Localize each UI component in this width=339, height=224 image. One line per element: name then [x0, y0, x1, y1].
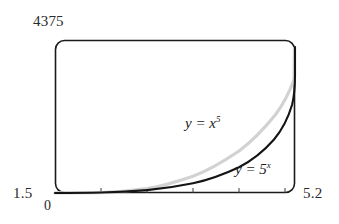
curve-label-power-exponent: 5 [216, 114, 221, 124]
x-max-label: 5.2 [303, 186, 322, 201]
y-min-label: 1.5 [13, 186, 32, 201]
curve-label-exponential-exponent: x [267, 160, 271, 170]
curve-label-exponential-text: y = 5 [235, 161, 267, 177]
curve-label-power-text: y = x [185, 115, 216, 131]
y-max-label: 4375 [33, 14, 64, 29]
x-min-label: 0 [44, 199, 51, 213]
curve-label-power: y = x5 [185, 116, 220, 131]
plot-area [0, 0, 339, 224]
graph-figure: 4375 1.5 0 5.2 y = x5 y = 5x [0, 0, 339, 224]
curve-label-exponential: y = 5x [235, 162, 271, 177]
